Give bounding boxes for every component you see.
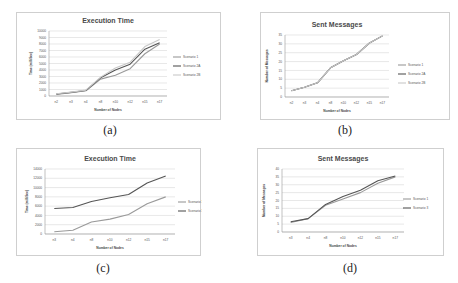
caption-b: (b): [325, 123, 365, 138]
x-axis-label: Number of Nodes: [329, 244, 357, 248]
x-tick-label: n10: [107, 238, 113, 242]
x-tick-label: n3: [289, 236, 293, 240]
x-tick-label: n3: [69, 100, 73, 104]
y-tick-label: 15: [278, 69, 282, 73]
x-tick-label: n2: [55, 100, 59, 104]
x-tick-label: n10: [113, 100, 119, 104]
x-axis-label: Number of Nodes: [94, 108, 122, 112]
y-tick-label: 2000: [35, 223, 42, 227]
y-tick-label: 5: [280, 86, 282, 90]
y-tick-label: 25: [278, 51, 282, 55]
legend-label: Scenario 1: [408, 63, 423, 67]
y-tick-label: 4000: [35, 214, 42, 218]
x-tick-label: n4: [306, 236, 310, 240]
x-tick-label: n17: [163, 238, 169, 242]
x-tick-label: n4: [316, 101, 320, 105]
y-tick-label: 14000: [33, 167, 42, 171]
chart-panel-b: Sent Messages05101520253035n2n3n4n8n10n1…: [260, 12, 450, 120]
x-tick-label: n4: [84, 100, 88, 104]
x-tick-label: n12: [354, 101, 360, 105]
legend-label: Scenario 3: [413, 206, 428, 210]
legend-label: Scenario 2A: [408, 72, 426, 76]
y-tick-label: 0: [277, 230, 279, 234]
legend-label: Scenario 1: [413, 197, 428, 201]
caption-d: (d): [330, 261, 370, 276]
x-tick-label: n15: [375, 236, 381, 240]
x-tick-label: n17: [393, 236, 399, 240]
chart-panel-d: Sent Messages0510152025303540n3n4n8n10n1…: [257, 148, 444, 256]
series-line: [56, 39, 159, 93]
y-axis-label: Number of Messages: [265, 49, 269, 82]
y-tick-label: 30: [278, 42, 282, 46]
x-tick-label: n10: [340, 236, 346, 240]
chart-panel-a: Execution Time01000200030004000500060007…: [16, 12, 221, 120]
x-axis-label: Number of Nodes: [323, 109, 351, 113]
y-tick-label: 1000: [39, 88, 46, 92]
x-tick-label: n8: [99, 100, 103, 104]
y-tick-label: 30: [275, 183, 279, 187]
y-tick-label: 8000: [39, 42, 46, 46]
x-tick-label: n3: [53, 238, 57, 242]
legend-label: Scenario 2A: [183, 64, 201, 68]
x-tick-label: n8: [90, 238, 94, 242]
x-axis-label: Number of Nodes: [96, 246, 124, 250]
x-tick-label: n10: [341, 101, 347, 105]
y-axis-label: Number of Messages: [262, 184, 266, 217]
y-tick-label: 10000: [37, 29, 46, 33]
y-tick-label: 15: [275, 206, 279, 210]
chart-svg: Execution Time01000200030004000500060007…: [17, 13, 222, 121]
y-tick-label: 3000: [39, 75, 46, 79]
y-tick-label: 0: [280, 95, 282, 99]
caption-a: (a): [90, 123, 130, 138]
x-tick-label: n12: [126, 238, 132, 242]
x-tick-label: n12: [127, 100, 133, 104]
y-tick-label: 10000: [33, 186, 42, 190]
chart-title: Execution Time: [84, 155, 136, 162]
y-tick-label: 35: [278, 33, 282, 37]
x-tick-label: n17: [380, 101, 386, 105]
y-tick-label: 7000: [39, 49, 46, 53]
chart-panel-c: Execution Time02000400060008000100001200…: [16, 148, 201, 256]
legend-label: Scenario 1: [183, 55, 198, 59]
x-tick-label: n3: [303, 101, 307, 105]
x-tick-label: n15: [144, 238, 150, 242]
x-tick-label: n8: [324, 236, 328, 240]
series-line: [54, 197, 165, 232]
y-tick-label: 20: [275, 199, 279, 203]
chart-title: Sent Messages: [318, 155, 369, 163]
y-tick-label: 4000: [39, 68, 46, 72]
y-tick-label: 2000: [39, 81, 46, 85]
legend-label: Scenario 3: [188, 209, 202, 213]
caption-c: (c): [83, 261, 123, 276]
y-tick-label: 10: [278, 77, 282, 81]
y-tick-label: 35: [275, 175, 279, 179]
chart-title: Sent Messages: [312, 21, 363, 29]
y-tick-label: 0: [40, 232, 42, 236]
chart-svg: Sent Messages0510152025303540n3n4n8n10n1…: [258, 149, 445, 257]
x-tick-label: n12: [358, 236, 364, 240]
series-line: [291, 177, 396, 223]
chart-title: Execution Time: [82, 17, 134, 24]
x-tick-label: n4: [71, 238, 75, 242]
x-tick-label: n2: [290, 101, 294, 105]
y-tick-label: 10: [275, 214, 279, 218]
y-axis-label: Time (milliSec): [29, 52, 33, 75]
y-axis-label: Time (milliSec): [25, 190, 29, 213]
chart-svg: Execution Time02000400060008000100001200…: [17, 149, 202, 257]
x-tick-label: n17: [157, 100, 163, 104]
y-tick-label: 5: [277, 222, 279, 226]
chart-svg: Sent Messages05101520253035n2n3n4n8n10n1…: [261, 13, 451, 121]
y-tick-label: 25: [275, 191, 279, 195]
y-tick-label: 8000: [35, 195, 42, 199]
y-tick-label: 20: [278, 60, 282, 64]
legend-label: Scenario 2B: [183, 73, 200, 77]
series-line: [56, 44, 159, 94]
y-tick-label: 40: [275, 167, 279, 171]
y-tick-label: 6000: [35, 204, 42, 208]
legend-label: Scenario 1: [188, 200, 202, 204]
y-tick-label: 9000: [39, 36, 46, 40]
x-tick-label: n8: [329, 101, 333, 105]
x-tick-label: n15: [142, 100, 148, 104]
legend-label: Scenario 2B: [408, 81, 425, 85]
y-tick-label: 6000: [39, 55, 46, 59]
